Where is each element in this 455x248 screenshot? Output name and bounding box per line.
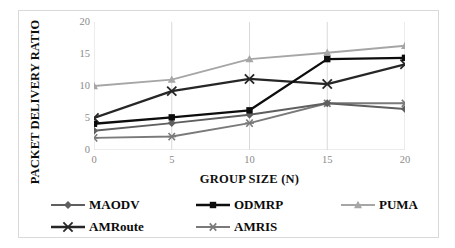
line-chart-svg bbox=[94, 22, 405, 150]
legend-item-amroute[interactable]: AMRoute bbox=[50, 217, 144, 237]
x-tick-label: 10 bbox=[235, 154, 265, 165]
data-point-marker-diamond bbox=[64, 201, 72, 209]
data-point-marker-square bbox=[402, 55, 405, 61]
x-axis-title: GROUP SIZE (N) bbox=[94, 172, 405, 187]
y-axis-title: PACKET DELIVERY RATIO bbox=[28, 17, 48, 187]
legend-label: MAODV bbox=[89, 197, 140, 213]
y-tick-label: 10 bbox=[68, 81, 90, 91]
chart-legend: MAODVODMRPPUMAAMRouteAMRIS bbox=[50, 195, 420, 239]
y-tick-label: 20 bbox=[68, 17, 90, 27]
legend-swatch-square-icon bbox=[195, 198, 231, 212]
legend-label: PUMA bbox=[379, 197, 418, 213]
x-tick-label: 0 bbox=[79, 154, 109, 165]
x-tick-label: 15 bbox=[312, 154, 342, 165]
x-tick-label: 5 bbox=[157, 154, 187, 165]
data-point-marker-asterisk bbox=[209, 223, 218, 230]
data-point-marker-square bbox=[169, 114, 175, 120]
legend-label: AMRoute bbox=[89, 219, 144, 235]
legend-item-odmrp[interactable]: ODMRP bbox=[195, 195, 283, 215]
chart-figure: PACKET DELIVERY RATIO 05101520 05101520 … bbox=[0, 0, 455, 248]
y-tick-label: 15 bbox=[68, 49, 90, 59]
data-point-marker-square bbox=[324, 56, 330, 62]
data-point-marker-square bbox=[94, 121, 97, 127]
legend-swatch-diamond-icon bbox=[50, 198, 86, 212]
legend-label: AMRIS bbox=[234, 219, 277, 235]
legend-label: ODMRP bbox=[234, 197, 283, 213]
y-axis-tick-labels: 05101520 bbox=[64, 22, 90, 150]
legend-swatch-triangle-icon bbox=[340, 198, 376, 212]
data-point-marker-square bbox=[210, 202, 216, 208]
legend-item-amris[interactable]: AMRIS bbox=[195, 217, 277, 237]
legend-row: MAODVODMRPPUMA bbox=[50, 195, 420, 215]
legend-swatch-asterisk-icon bbox=[195, 220, 231, 234]
legend-item-maodv[interactable]: MAODV bbox=[50, 195, 140, 215]
y-tick-label: 5 bbox=[68, 113, 90, 123]
data-point-marker-diamond bbox=[94, 127, 98, 135]
legend-swatch-x-icon bbox=[50, 220, 86, 234]
x-axis-tick-labels: 05101520 bbox=[94, 154, 405, 168]
legend-row: AMRouteAMRIS bbox=[50, 217, 420, 237]
x-tick-label: 20 bbox=[390, 154, 420, 165]
data-point-marker-asterisk bbox=[94, 134, 98, 141]
data-point-marker-square bbox=[246, 107, 252, 113]
legend-item-puma[interactable]: PUMA bbox=[340, 195, 418, 215]
plot-area bbox=[94, 22, 405, 150]
